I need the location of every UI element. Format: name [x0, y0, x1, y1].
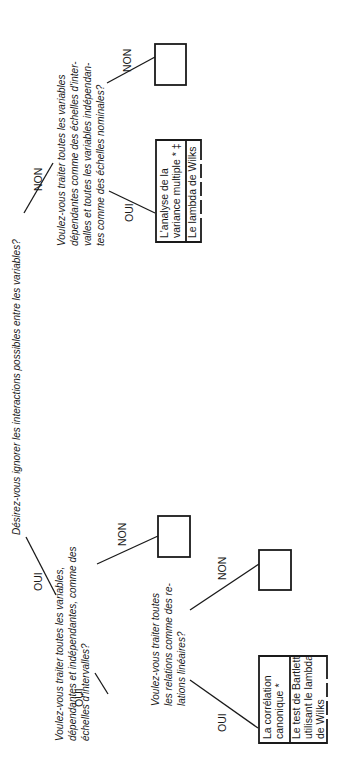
root-question: Désirez-vous ignorer les interactions po… [11, 239, 22, 535]
test-name: de Wilks [314, 699, 326, 739]
question-line: Voulez-vous traiter toutes les variables [56, 75, 67, 246]
question-line: valles et toutes les variables indépenda… [82, 62, 93, 246]
question-interval-scales: Voulez-vous traiter toutes les variables… [54, 546, 91, 741]
empty-result-box [158, 516, 190, 557]
question-linear-relations: Voulez-vous traiter toutes les relations… [150, 583, 187, 706]
method-name: La corrélation [261, 675, 273, 739]
test-name: Le test de Bartlett [290, 657, 302, 739]
question-line: Voulez-vous traiter toutes [150, 593, 161, 706]
q2-non-label: NON [121, 49, 133, 72]
question-line: Voulez-vous traiter toutes les variables… [54, 567, 65, 741]
q2-oui-label: OUI [123, 203, 135, 222]
root-non-label: NON [32, 168, 44, 191]
q3-oui-connector [95, 673, 108, 694]
decision-tree: Désirez-vous ignorer les interactions po… [0, 0, 360, 773]
q3-oui-label: OUI [73, 688, 85, 707]
question-line: dépendantes comme des échelles d'inter- [69, 61, 80, 246]
q4-oui-label: OUI [216, 713, 228, 732]
method-name: L'analyse de la [158, 168, 170, 238]
question-line: les relations comme des re- [163, 583, 174, 706]
manova-result-box: L'analyse de la variance multiple * ‡ Le… [156, 140, 201, 242]
question-nominal-scales: Voulez-vous traiter toutes les variables… [56, 61, 106, 246]
question-line: tes comme des échelles nominales? [95, 84, 106, 246]
method-name: variance multiple * ‡ [170, 143, 182, 238]
empty-result-box [259, 550, 291, 590]
question-line: lations linéaires? [176, 631, 187, 706]
q3-non-label: NON [116, 523, 128, 546]
test-name: utilisant le lambda [302, 655, 314, 739]
q4-non-label: NON [216, 557, 228, 580]
canonical-correlation-result-box: La corrélation canonique * Le test de Ba… [259, 655, 327, 743]
method-name: canonique * [273, 684, 285, 739]
question-line: dépendantes et indépendantes, comme des [67, 546, 78, 741]
root-oui-label: OUI [32, 572, 44, 591]
empty-result-box [155, 44, 186, 85]
test-name: Le lambda de Wilks [186, 146, 198, 238]
